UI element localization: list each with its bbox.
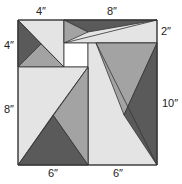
label-top-right: 8″	[107, 6, 117, 17]
label-left-top: 4″	[4, 40, 14, 51]
quilt-block-diagram	[0, 0, 182, 184]
label-left-bottom: 8″	[4, 104, 14, 115]
label-top-left: 4″	[36, 6, 46, 17]
label-right-bottom: 10″	[162, 98, 178, 109]
label-bottom-right: 6″	[113, 168, 123, 179]
label-bottom-left: 6″	[48, 168, 58, 179]
label-right-top: 2″	[161, 26, 171, 37]
white-square	[64, 43, 88, 67]
